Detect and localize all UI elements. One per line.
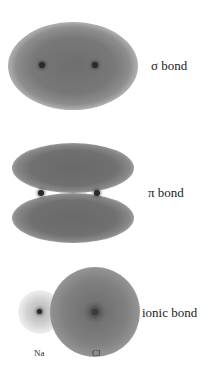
pi-nucleus-left <box>38 190 44 196</box>
pi-nucleus-right <box>94 190 100 196</box>
sigma-bond-label: σ bond <box>151 58 187 74</box>
sigma-nucleus-right <box>92 62 98 68</box>
na-atom-label: Na <box>34 348 45 358</box>
pi-bond-label: π bond <box>148 185 184 201</box>
na-nucleus <box>37 309 42 314</box>
pi-upper-lobe <box>12 143 134 193</box>
cl-atom-label: Cl <box>92 348 101 358</box>
sigma-nucleus-left <box>39 62 45 68</box>
ionic-bond-panel: ionic bond Na Cl <box>0 250 216 375</box>
cl-nucleus <box>92 309 98 315</box>
sigma-bond-panel: σ bond <box>0 0 216 130</box>
ionic-bond-label: ionic bond <box>142 305 197 321</box>
pi-bond-panel: π bond <box>0 130 216 250</box>
pi-lower-lobe <box>12 193 134 243</box>
sigma-electron-cloud <box>8 22 138 110</box>
